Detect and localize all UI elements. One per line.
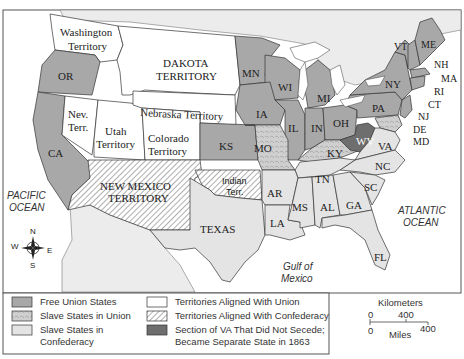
legend-swatch-wv	[147, 325, 167, 335]
scale-bar: Kilometers 0 400 0 400 Miles	[368, 297, 436, 340]
label-nevada-1: Nev.	[68, 108, 89, 120]
legend-swatch-terr-union	[147, 297, 167, 307]
legend-label-wv-1: Section of VA That Did Not Secede;	[175, 324, 325, 335]
label-la: LA	[270, 217, 285, 229]
label-pacific-1: PACIFIC	[7, 190, 46, 201]
compass-s: S	[30, 261, 35, 270]
legend-label-terr-union: Territories Aligned With Union	[175, 296, 300, 307]
label-new-mexico-2: TERRITORY	[108, 192, 169, 204]
label-in: IN	[311, 122, 323, 134]
label-colorado-1: Colorado	[148, 132, 189, 144]
scale-mi-label: Miles	[389, 329, 411, 340]
scale-km-0: 0	[368, 309, 373, 320]
legend: Free Union States Slave States in Union …	[3, 293, 329, 354]
label-colorado-2: Territory	[148, 145, 187, 157]
label-utah-1: Utah	[105, 125, 127, 137]
civil-war-map: Washington Territory DAKOTA TERRITORY Ne…	[0, 0, 464, 359]
label-pacific-2: OCEAN	[9, 202, 45, 213]
label-ga: GA	[346, 199, 362, 211]
label-ar: AR	[267, 187, 283, 199]
label-al: AL	[320, 201, 335, 213]
label-il: IL	[288, 122, 299, 134]
label-mi: MI	[317, 92, 331, 104]
label-or: OR	[58, 70, 74, 82]
label-sc: SC	[364, 181, 377, 193]
label-wv: WV	[356, 135, 374, 147]
label-ct: CT	[428, 99, 441, 110]
label-ky: KY	[327, 147, 343, 159]
compass-w: W	[11, 242, 19, 251]
label-dakota-2: TERRITORY	[156, 70, 217, 82]
label-ny: NY	[385, 78, 401, 90]
label-indian-1: Indian	[222, 176, 247, 186]
legend-label-free: Free Union States	[40, 296, 117, 307]
legend-label-confederacy-2: Confederacy	[40, 336, 94, 347]
label-dakota-1: DAKOTA	[163, 57, 209, 69]
label-ia: IA	[256, 108, 268, 120]
legend-swatch-confederacy	[12, 325, 32, 335]
label-gulf-2: Mexico	[281, 273, 313, 284]
label-ca: CA	[48, 147, 63, 159]
label-md: MD	[413, 136, 429, 147]
scale-mi-400: 400	[420, 323, 436, 334]
compass-rose-icon: N S E W	[11, 227, 52, 270]
label-pa: PA	[372, 102, 385, 114]
label-nj: NJ	[418, 111, 429, 122]
compass-n: N	[30, 227, 36, 236]
label-me: ME	[421, 39, 436, 50]
label-ri: RI	[434, 86, 444, 97]
legend-label-wv-2: Became Separate State in 1863	[175, 336, 310, 347]
state-ct-ri	[410, 76, 425, 90]
label-washington-2: Territory	[68, 40, 107, 52]
label-mo: MO	[254, 142, 272, 154]
scale-km-400: 400	[398, 309, 414, 320]
legend-label-border: Slave States in Union	[40, 310, 131, 321]
label-atlantic-1: ATLANTIC	[397, 205, 446, 216]
label-texas: TEXAS	[200, 223, 235, 235]
legend-swatch-free	[12, 297, 32, 307]
label-fl: FL	[374, 251, 387, 263]
label-washington-1: Washington	[60, 26, 113, 38]
compass-e: E	[47, 246, 52, 255]
scale-mi-0: 0	[368, 325, 373, 336]
label-wi: WI	[278, 81, 292, 93]
label-new-mexico-1: NEW MEXICO	[100, 180, 171, 192]
label-mn: MN	[242, 67, 260, 79]
label-ks: KS	[219, 140, 233, 152]
label-va: VA	[378, 140, 393, 152]
legend-label-terr-confederacy: Territories Aligned With Confederacy	[175, 310, 329, 321]
label-nh: NH	[434, 59, 448, 70]
label-nc: NC	[375, 160, 390, 172]
label-ms: MS	[292, 201, 308, 213]
label-oh: OH	[333, 117, 349, 129]
legend-swatch-terr-confederacy	[147, 311, 167, 321]
label-de: DE	[413, 124, 426, 135]
legend-swatch-border	[12, 311, 32, 321]
label-tn: TN	[315, 173, 330, 185]
label-atlantic-2: OCEAN	[403, 217, 439, 228]
title-strip	[0, 0, 464, 10]
label-vt: VT	[394, 41, 407, 52]
label-nevada-2: Terr.	[68, 121, 89, 133]
scale-km-label: Kilometers	[378, 297, 423, 308]
legend-label-confederacy-1: Slave States in	[40, 324, 103, 335]
label-indian-2: Terr.	[226, 187, 244, 197]
label-utah-2: Territory	[96, 138, 135, 150]
label-gulf-1: Gulf of	[283, 261, 314, 272]
label-ma: MA	[441, 73, 458, 84]
